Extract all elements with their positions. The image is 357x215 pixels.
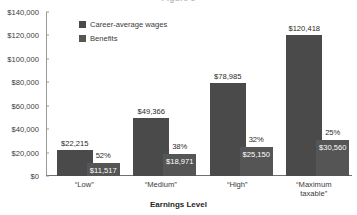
y-axis-tick-label: $40,000 <box>12 125 46 134</box>
y-axis-tick-label: $0 <box>31 172 46 181</box>
y-axis-tick-mark <box>46 82 49 83</box>
bar-group: $49,366$18,97138% <box>133 12 196 176</box>
bar-value-label-career-average-wages: $120,418 <box>288 24 320 33</box>
bar-value-label-benefits: $18,971 <box>166 157 193 166</box>
chart-container: Figure 3 Career-average wages Benefits $… <box>0 0 357 215</box>
y-axis-tick-label: $80,000 <box>12 78 46 87</box>
bar-group: $22,215$11,51752% <box>57 12 120 176</box>
y-axis-tick-mark <box>46 35 49 36</box>
replacement-rate-label: 52% <box>96 151 111 160</box>
x-axis-category-line: taxable” <box>276 189 353 198</box>
bar-value-label-benefits: $11,517 <box>90 166 117 175</box>
y-axis-tick-label: $120,000 <box>7 31 46 40</box>
y-axis-tick-mark <box>46 58 49 59</box>
x-axis-category-label: “Medium” <box>123 180 200 189</box>
x-axis-category-line: “High” <box>199 180 276 189</box>
y-axis-tick-label: $100,000 <box>7 54 46 63</box>
replacement-rate-label: 25% <box>325 128 340 137</box>
replacement-rate-label: 38% <box>172 142 187 151</box>
x-axis-category-line: “Medium” <box>123 180 200 189</box>
bar-group: $78,985$25,15032% <box>210 12 273 176</box>
bar-value-label-career-average-wages: $49,366 <box>138 107 165 116</box>
y-axis-tick-mark <box>46 152 49 153</box>
y-axis-tick-mark <box>46 176 49 177</box>
bar-value-label-benefits: $30,560 <box>319 143 346 152</box>
x-axis-category-label: “Maximumtaxable” <box>276 180 353 198</box>
bar-group: $120,418$30,56025% <box>286 12 349 176</box>
y-axis-tick-mark <box>46 105 49 106</box>
bar-value-label-career-average-wages: $78,985 <box>214 72 241 81</box>
bar-value-label-career-average-wages: $22,215 <box>61 139 88 148</box>
x-axis-category-label: “Low” <box>46 180 123 189</box>
replacement-rate-label: 32% <box>249 135 264 144</box>
y-axis-tick-label: $140,000 <box>7 8 46 17</box>
x-axis-category-label: “High” <box>199 180 276 189</box>
y-axis-tick-mark <box>46 12 49 13</box>
y-axis-tick-label: $20,000 <box>12 148 46 157</box>
y-axis-tick-label: $60,000 <box>12 101 46 110</box>
x-axis-category-line: “Low” <box>46 180 123 189</box>
y-axis-tick-mark <box>46 129 49 130</box>
chart-title: Figure 3 <box>0 0 357 3</box>
bar-value-label-benefits: $25,150 <box>243 150 270 159</box>
plot-area: $0$20,000$40,000$60,000$80,000$100,000$1… <box>46 12 352 176</box>
x-axis-category-line: “Maximum <box>276 180 353 189</box>
x-axis-title: Earnings Level <box>0 200 357 209</box>
